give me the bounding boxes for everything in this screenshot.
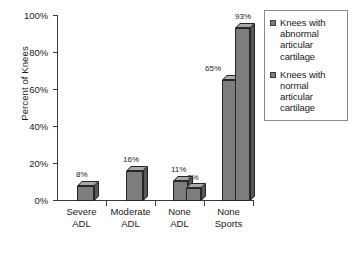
- bar-group-none-adl: 11% 7%: [170, 15, 214, 201]
- bar-value-label-none-sports-normal: 93%: [235, 13, 251, 21]
- bar-front-face: [235, 28, 250, 201]
- bar-front-face: [186, 188, 201, 201]
- x-axis-label-severe-adl: Severe ADL: [57, 206, 106, 229]
- bar-value-label-none-adl-normal: 7%: [187, 174, 199, 182]
- bar-group-moderate-adl: 16%: [121, 15, 165, 201]
- bar-value-label-severe-abnormal: 8%: [76, 171, 88, 179]
- legend: Knees with abnormal articular cartilage …: [264, 10, 348, 121]
- bar-front-face: [77, 186, 94, 201]
- y-tick-label-100: 100%: [14, 11, 48, 21]
- bar-group-none-sports: 65% 93%: [219, 15, 263, 201]
- y-tick-label-0: 0%: [14, 196, 48, 206]
- bar-severe-adl-abnormal[interactable]: [77, 186, 94, 201]
- plot-area: 8% 16% 11% 7%: [57, 15, 254, 201]
- bar-none-adl-normal[interactable]: [186, 188, 201, 201]
- legend-swatch-icon: [270, 72, 276, 78]
- bar-group-severe-adl: 8%: [72, 15, 116, 201]
- x-axis-label-moderate-adl: Moderate ADL: [106, 206, 155, 229]
- bar-none-sports-normal[interactable]: [235, 28, 250, 201]
- x-axis-label-none-adl: None ADL: [155, 206, 204, 229]
- x-axis-label-none-sports: None Sports: [204, 206, 253, 229]
- y-tick-label-40: 40%: [14, 122, 48, 132]
- bar-side-face: [250, 23, 255, 201]
- legend-label-abnormal: Knees with abnormal articular cartilage: [280, 17, 325, 62]
- legend-item-abnormal[interactable]: Knees with abnormal articular cartilage: [269, 17, 343, 62]
- y-axis-tick-labels: 100% 80% 60% 40% 20% 0%: [14, 0, 48, 253]
- legend-swatch-icon: [270, 20, 276, 26]
- legend-label-normal: Knees with normal articular cartilage: [280, 69, 325, 114]
- legend-item-normal[interactable]: Knees with normal articular cartilage: [269, 69, 343, 114]
- y-tick-label-20: 20%: [14, 159, 48, 169]
- x-axis-separator-4: [253, 201, 254, 206]
- y-tick-label-60: 60%: [14, 85, 48, 95]
- bar-front-face: [126, 171, 143, 201]
- bar-moderate-adl-abnormal[interactable]: [126, 171, 143, 201]
- bar-value-label-none-sports-abnormal: 65%: [205, 65, 221, 73]
- y-tick-label-80: 80%: [14, 48, 48, 58]
- bar-side-face: [143, 166, 148, 201]
- bar-chart: Percent of Knees 100% 80% 60% 40% 20% 0%: [0, 0, 352, 253]
- bar-value-label-none-adl-abnormal: 11%: [171, 166, 186, 174]
- bar-value-label-moderate-abnormal: 16%: [123, 156, 139, 164]
